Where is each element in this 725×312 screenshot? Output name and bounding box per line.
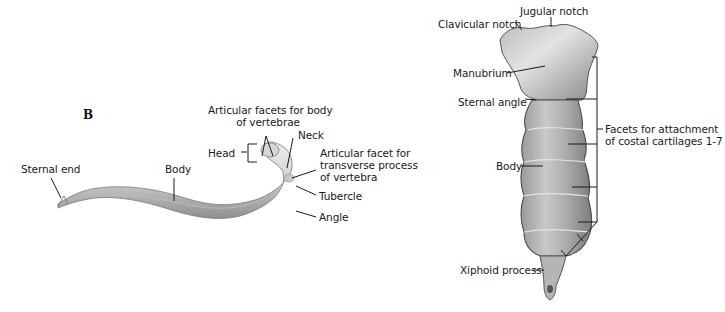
label-line: Articular facet for xyxy=(320,147,418,159)
label-neck: Neck xyxy=(298,129,324,141)
label-angle: Angle xyxy=(319,211,348,223)
label-line: of vertebra xyxy=(320,171,418,183)
label-line: Articular facets for body xyxy=(208,104,328,116)
label-articular-facet-transverse: Articular facet for transverse process o… xyxy=(320,147,418,183)
rib-illustration xyxy=(58,142,294,219)
label-sternum-body: Body xyxy=(496,160,522,172)
label-manubrium: Manubrium xyxy=(453,67,512,79)
anatomy-figure: B Articular facets for body of vertebrae… xyxy=(0,0,725,312)
label-articular-facets-body: Articular facets for body of vertebrae xyxy=(208,104,328,128)
label-sternal-end: Sternal end xyxy=(21,163,80,175)
label-jugular-notch: Jugular notch xyxy=(520,5,588,17)
label-clavicular-notch: Clavicular notch xyxy=(438,18,521,30)
label-sternal-angle: Sternal angle xyxy=(458,96,527,108)
label-line: Facets for attachment xyxy=(605,123,723,135)
label-line: transverse process xyxy=(320,159,418,171)
panel-letter-b: B xyxy=(83,108,93,122)
label-rib-body: Body xyxy=(165,163,191,175)
label-line: of vertebrae xyxy=(208,116,328,128)
label-tubercle: Tubercle xyxy=(319,190,362,202)
label-line: of costal cartilages 1-7 xyxy=(605,135,723,147)
label-head: Head xyxy=(208,147,235,159)
label-xiphoid-process: Xiphoid process xyxy=(460,264,542,276)
label-costal-facets: Facets for attachment of costal cartilag… xyxy=(605,123,723,147)
